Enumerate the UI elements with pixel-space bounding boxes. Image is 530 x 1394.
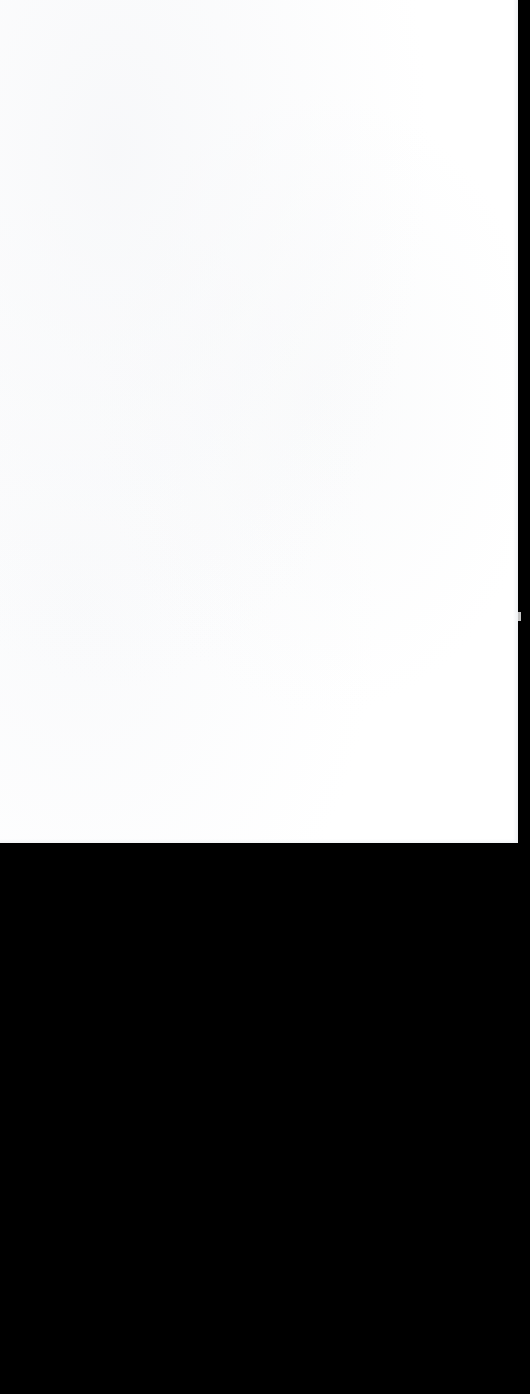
document-viewer-root [0, 0, 530, 1394]
page-content-area [0, 0, 518, 843]
page-canvas[interactable] [0, 0, 518, 843]
bottom-gutter-backdrop [0, 843, 530, 1394]
scroll-position-marker[interactable] [518, 612, 521, 621]
